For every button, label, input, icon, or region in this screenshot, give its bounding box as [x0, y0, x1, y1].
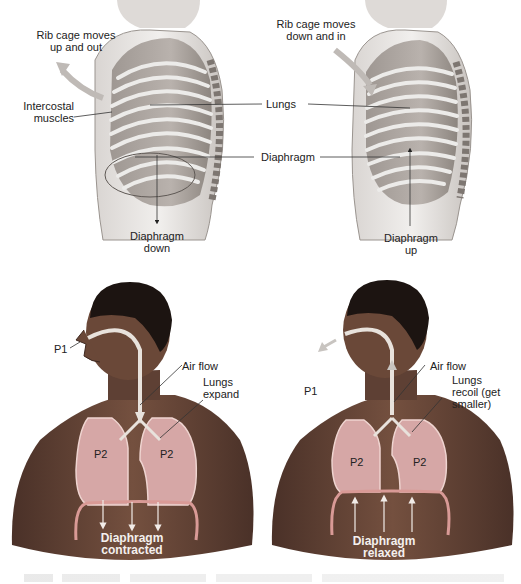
label-line: Rib cage moves	[28, 29, 124, 41]
label-line: Rib cage moves	[268, 18, 364, 30]
label-line: up and out	[28, 41, 124, 53]
body-inhale-illustration	[12, 282, 254, 560]
figure-caption-illegible	[24, 574, 504, 582]
label-diaphragm-relaxed: Diaphragm relaxed	[344, 535, 424, 559]
label-diaphragm-contracted: Diaphragm contracted	[92, 532, 172, 556]
label-line: down and in	[268, 30, 364, 42]
label-line: relaxed	[344, 547, 424, 559]
label-p2-right-exhale: P2	[413, 456, 426, 468]
label-lungs: Lungs	[266, 98, 296, 110]
label-lungs-expand: Lungs expand	[203, 376, 239, 400]
label-air-flow-exhale: Air flow	[430, 360, 466, 372]
label-diaphragm: Diaphragm	[261, 151, 315, 163]
label-p2-left-inhale: P2	[94, 448, 107, 460]
label-line: contracted	[92, 544, 172, 556]
label-lungs-recoil: Lungs recoil (get smaller)	[452, 374, 500, 410]
respiration-diagram	[0, 0, 521, 584]
label-rib-cage-up-out: Rib cage moves up and out	[28, 29, 124, 53]
label-line: muscles	[12, 112, 74, 124]
label-intercostal-muscles: Intercostal muscles	[12, 100, 74, 124]
label-p2-right-inhale: P2	[160, 448, 173, 460]
label-line: Diaphragm	[122, 230, 192, 242]
label-line: Diaphragm	[376, 232, 446, 244]
label-p1-exhale: P1	[304, 385, 317, 397]
label-p1-inhale: P1	[54, 343, 67, 355]
label-line: recoil (get	[452, 386, 500, 398]
label-rib-cage-down-in: Rib cage moves down and in	[268, 18, 364, 42]
label-line: up	[376, 244, 446, 256]
label-air-flow-inhale: Air flow	[182, 360, 218, 372]
label-line: smaller)	[452, 398, 500, 410]
label-diaphragm-down: Diaphragm down	[122, 230, 192, 254]
label-line: down	[122, 242, 192, 254]
label-line: Lungs	[452, 374, 500, 386]
label-p2-left-exhale: P2	[350, 456, 363, 468]
label-line: Intercostal	[12, 100, 74, 112]
body-exhale-illustration	[272, 280, 514, 560]
label-line: expand	[203, 388, 239, 400]
label-line: Lungs	[203, 376, 239, 388]
label-diaphragm-up: Diaphragm up	[376, 232, 446, 256]
